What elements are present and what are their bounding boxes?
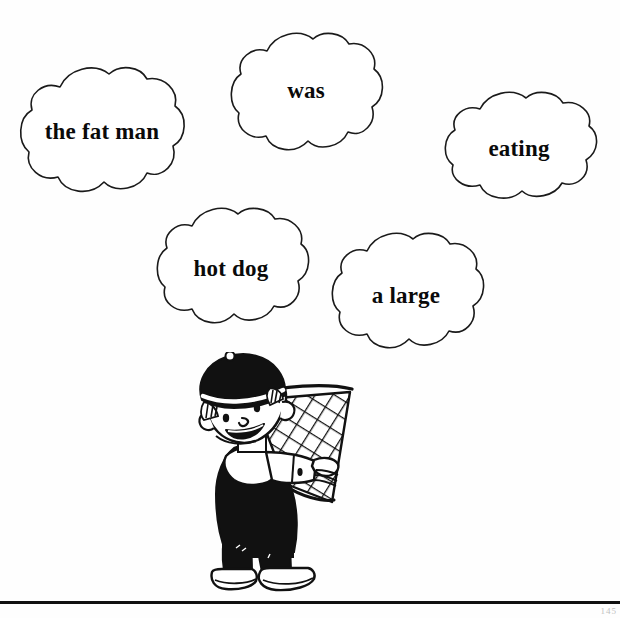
word-cloud-3[interactable]: eating bbox=[438, 86, 600, 208]
cap-button bbox=[226, 352, 235, 361]
boy-eye-left bbox=[223, 414, 229, 422]
page-number: 145 bbox=[601, 606, 618, 614]
word-cloud-4[interactable]: hot dog bbox=[150, 201, 312, 333]
boy-shoe-left bbox=[212, 569, 257, 589]
word-cloud-1[interactable]: the fat man bbox=[16, 60, 188, 202]
boy-with-net-icon bbox=[182, 352, 414, 594]
word-cloud-label: a large bbox=[372, 284, 440, 307]
worksheet-page: the fat man was eating hot dog a large bbox=[0, 0, 620, 618]
boy-with-butterfly-net-illustration bbox=[182, 352, 414, 594]
word-cloud-label: was bbox=[287, 79, 325, 102]
rule-line bbox=[0, 601, 620, 604]
word-cloud-label: eating bbox=[488, 137, 549, 160]
boy-eye-right bbox=[254, 404, 260, 412]
word-cloud-2[interactable]: was bbox=[226, 26, 386, 160]
word-cloud-label: hot dog bbox=[194, 257, 269, 280]
boy-shoe-right bbox=[259, 568, 315, 590]
word-cloud-5[interactable]: a large bbox=[325, 226, 487, 358]
word-cloud-label: the fat man bbox=[45, 120, 160, 143]
footer-rule bbox=[0, 600, 620, 605]
